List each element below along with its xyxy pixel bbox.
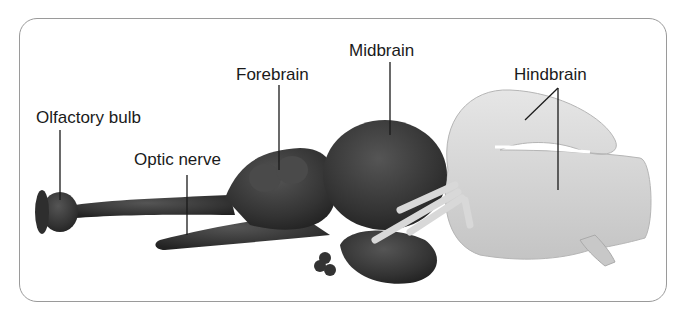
hindbrain-shape (445, 90, 651, 266)
brain-illustration (0, 0, 687, 323)
label-hindbrain: Hindbrain (514, 66, 587, 83)
label-forebrain: Forebrain (236, 66, 309, 83)
olfactory-shape (35, 190, 235, 234)
forebrain-shape (225, 148, 336, 230)
label-midbrain: Midbrain (349, 42, 414, 59)
label-olfactory-bulb: Olfactory bulb (36, 109, 141, 126)
label-optic-nerve: Optic nerve (134, 151, 221, 168)
midbrain-shape (323, 120, 447, 230)
